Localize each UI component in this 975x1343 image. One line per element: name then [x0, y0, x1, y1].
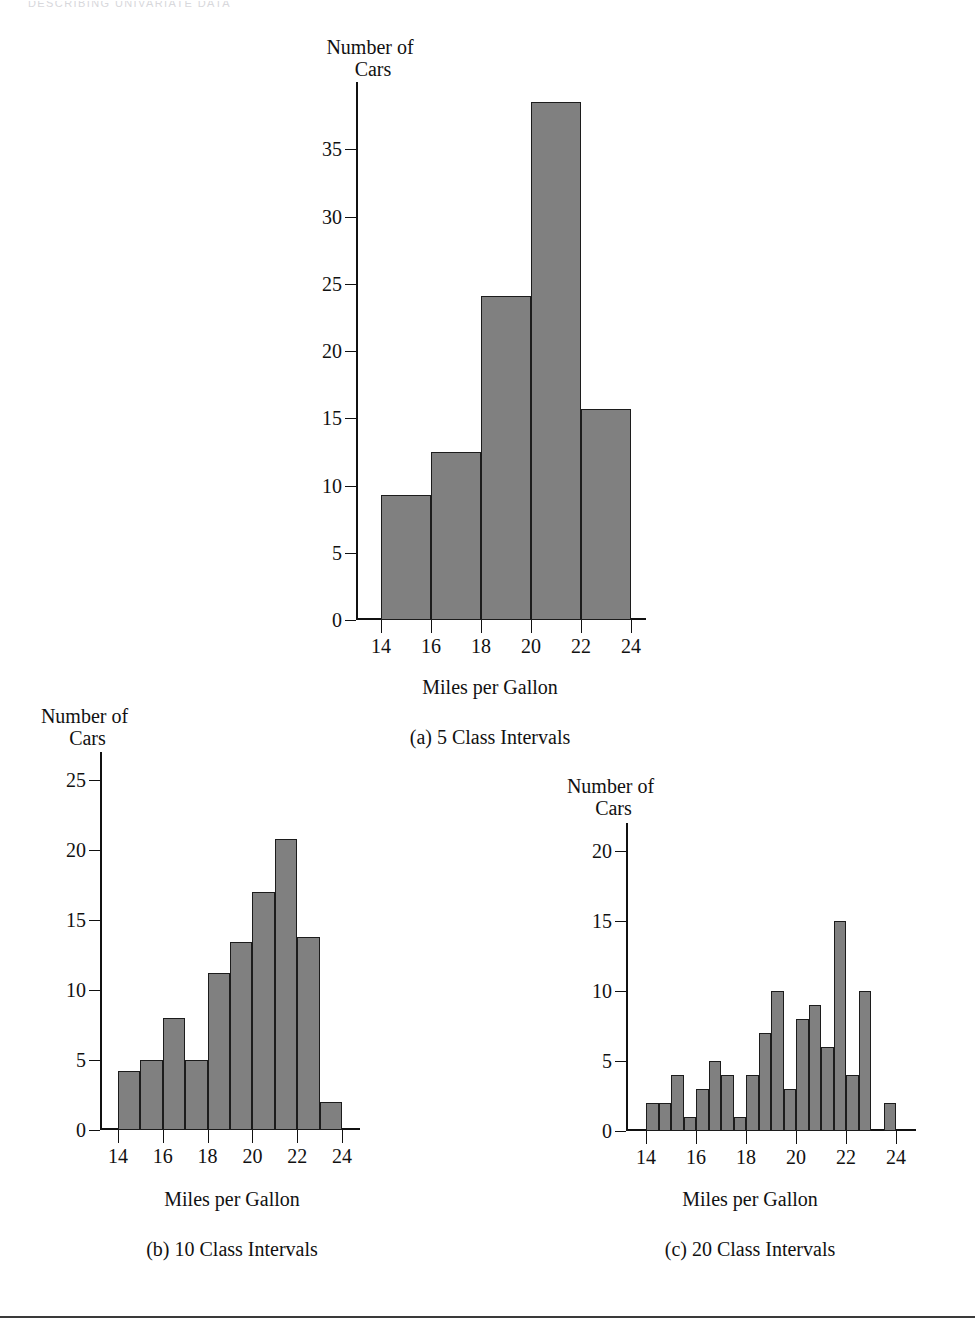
- y-tick: [345, 620, 356, 621]
- y-axis-title-line2: Cars: [310, 58, 430, 80]
- y-tick: [89, 1060, 100, 1061]
- footer-rule: [0, 1316, 975, 1318]
- chart-c-y-axis: [626, 823, 628, 1131]
- histogram-bar: [431, 452, 481, 620]
- x-tick-label: 14: [371, 636, 391, 656]
- histogram-bar: [746, 1075, 759, 1131]
- x-tick: [481, 620, 482, 633]
- y-tick: [89, 850, 100, 851]
- x-tick-label: 20: [786, 1147, 806, 1167]
- x-tick: [208, 1130, 209, 1143]
- x-tick-label: 22: [287, 1146, 307, 1166]
- y-tick: [89, 780, 100, 781]
- y-tick-label: 5: [332, 543, 342, 563]
- y-axis-title-line2: Cars: [22, 727, 147, 749]
- histogram-bar: [784, 1089, 797, 1131]
- histogram-bar: [163, 1018, 185, 1130]
- x-tick: [163, 1130, 164, 1143]
- y-tick-label: 15: [322, 408, 342, 428]
- chart-a-y-axis: [356, 82, 358, 620]
- y-tick-label: 35: [322, 139, 342, 159]
- histogram-bar: [140, 1060, 162, 1130]
- x-tick-label: 18: [736, 1147, 756, 1167]
- x-tick-label: 22: [571, 636, 591, 656]
- y-tick: [345, 284, 356, 285]
- y-tick-label: 0: [602, 1121, 612, 1141]
- histogram-bar: [230, 942, 252, 1130]
- histogram-bar: [381, 495, 431, 620]
- chart-b-caption: (b) 10 Class Intervals: [32, 1238, 432, 1260]
- chart-a-y-axis-title: Number of Cars: [310, 36, 430, 81]
- y-tick: [615, 991, 626, 992]
- x-tick: [118, 1130, 119, 1143]
- x-tick-label: 20: [521, 636, 541, 656]
- x-tick-label: 24: [621, 636, 641, 656]
- x-tick: [381, 620, 382, 633]
- chart-b-plot-area: 0510152025141618202224: [100, 752, 360, 1130]
- histogram-bar: [821, 1047, 834, 1131]
- y-tick: [345, 351, 356, 352]
- chart-a-plot-area: 05101520253035141618202224: [356, 82, 646, 620]
- y-tick: [89, 1130, 100, 1131]
- x-tick: [297, 1130, 298, 1143]
- histogram-bar: [185, 1060, 207, 1130]
- x-tick-label: 22: [836, 1147, 856, 1167]
- chart-b-y-axis-title: Number of Cars: [22, 705, 147, 750]
- y-axis-title-line1: Number of: [548, 775, 673, 797]
- histogram-bar: [581, 409, 631, 620]
- x-tick: [631, 620, 632, 633]
- y-tick-label: 20: [66, 840, 86, 860]
- y-tick-label: 20: [592, 841, 612, 861]
- x-tick: [896, 1131, 897, 1144]
- x-tick-label: 14: [108, 1146, 128, 1166]
- histogram-bar: [721, 1075, 734, 1131]
- y-tick: [615, 1131, 626, 1132]
- y-tick-label: 5: [76, 1050, 86, 1070]
- histogram-bar: [734, 1117, 747, 1131]
- y-tick-label: 10: [592, 981, 612, 1001]
- y-tick: [615, 851, 626, 852]
- y-tick-label: 0: [332, 610, 342, 630]
- y-tick: [345, 418, 356, 419]
- histogram-bar: [759, 1033, 772, 1131]
- y-tick: [615, 921, 626, 922]
- y-tick-label: 10: [322, 476, 342, 496]
- x-tick-label: 14: [636, 1147, 656, 1167]
- histogram-bar: [671, 1075, 684, 1131]
- chart-a: Number of Cars 0510152025303514161820222…: [310, 36, 670, 776]
- figure-page: DESCRIBING UNIVARIATE DATA Number of Car…: [0, 0, 975, 1343]
- x-tick: [746, 1131, 747, 1144]
- x-tick-label: 16: [153, 1146, 173, 1166]
- chart-c: Number of Cars 05101520141618202224 Mile…: [530, 775, 950, 1315]
- histogram-bar: [481, 296, 531, 620]
- x-tick: [581, 620, 582, 633]
- histogram-bar: [297, 937, 319, 1130]
- histogram-bar: [884, 1103, 897, 1131]
- histogram-bar: [834, 921, 847, 1131]
- histogram-bar: [531, 102, 581, 620]
- x-tick-label: 24: [886, 1147, 906, 1167]
- y-tick-label: 30: [322, 207, 342, 227]
- x-tick: [531, 620, 532, 633]
- x-tick: [646, 1131, 647, 1144]
- y-axis-title-line1: Number of: [22, 705, 147, 727]
- y-tick: [89, 990, 100, 991]
- chart-c-caption: (c) 20 Class Intervals: [550, 1238, 950, 1260]
- running-head: DESCRIBING UNIVARIATE DATA: [28, 0, 231, 9]
- y-tick-label: 15: [592, 911, 612, 931]
- histogram-bar: [320, 1102, 342, 1130]
- y-tick: [615, 1061, 626, 1062]
- histogram-bar: [696, 1089, 709, 1131]
- histogram-bar: [846, 1075, 859, 1131]
- y-axis-title-line2: Cars: [548, 797, 673, 819]
- chart-b: Number of Cars 0510152025141618202224 Mi…: [22, 705, 422, 1305]
- y-axis-title-line1: Number of: [310, 36, 430, 58]
- x-tick: [796, 1131, 797, 1144]
- histogram-bar: [118, 1071, 140, 1130]
- y-tick-label: 10: [66, 980, 86, 1000]
- x-tick: [252, 1130, 253, 1143]
- x-tick: [342, 1130, 343, 1143]
- x-tick-label: 16: [686, 1147, 706, 1167]
- histogram-bar: [659, 1103, 672, 1131]
- x-tick-label: 18: [198, 1146, 218, 1166]
